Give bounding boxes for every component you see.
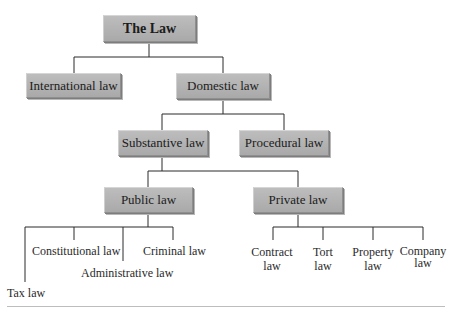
node-domestic-law: Domestic law [176,73,270,99]
node-private-law: Private law [253,187,343,213]
leaf-tort-line2: law [313,259,333,273]
node-international-law: International law [26,73,121,98]
leaf-tax-law: Tax law [7,286,45,300]
law-hierarchy-diagram: The Law International law Domestic law S… [0,0,460,313]
bottom-divider [7,306,445,307]
leaf-administrative-law: Administrative law [81,266,173,280]
leaf-property-line1: Property [352,245,393,259]
leaf-tort-line1: Tort [313,245,333,259]
leaf-contract-law: Contract law [251,245,292,273]
node-the-law: The Law [103,15,196,42]
leaf-tort-law: Tort law [313,245,333,273]
leaf-property-law: Property law [352,245,393,273]
leaf-company-line2: law [400,257,447,269]
leaf-contract-line2: law [251,259,292,273]
leaf-contract-line1: Contract [251,245,292,259]
node-procedural-law: Procedural law [239,130,329,156]
node-substantive-law: Substantive law [118,130,208,156]
leaf-property-line2: law [352,259,393,273]
node-public-law: Public law [104,187,193,213]
leaf-criminal-law: Criminal law [143,244,206,258]
leaf-company-law: Company law [400,245,447,269]
leaf-constitutional-law: Constitutional law [32,244,120,258]
